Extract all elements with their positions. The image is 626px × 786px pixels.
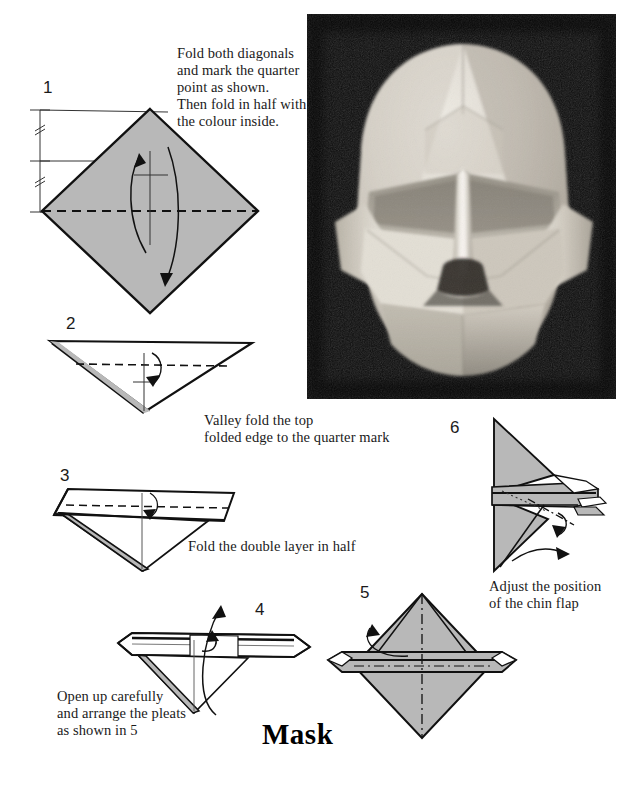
step-number-2: 2 bbox=[66, 314, 75, 334]
step-number-5: 5 bbox=[360, 583, 369, 603]
step-4-caption: Open up carefully and arrange the pleats… bbox=[57, 688, 232, 739]
step-2-diagram bbox=[40, 335, 260, 415]
step-number-3: 3 bbox=[60, 466, 69, 486]
step-3-caption: Fold the double layer in half bbox=[188, 538, 408, 555]
step-1-caption: Fold both diagonals and mark the quarter… bbox=[177, 45, 307, 130]
page-title: Mask bbox=[262, 718, 333, 751]
origami-instruction-page: 1 2 3 4 5 6 Fold both diagonals and mark… bbox=[0, 0, 626, 786]
step-number-1: 1 bbox=[43, 78, 52, 98]
step-number-6: 6 bbox=[450, 418, 459, 438]
step-6-caption: Adjust the position of the chin flap bbox=[489, 578, 624, 612]
step-6-diagram bbox=[478, 415, 613, 575]
step-5-diagram bbox=[322, 588, 522, 748]
finished-mask-photo bbox=[307, 14, 616, 399]
step-number-4: 4 bbox=[255, 600, 264, 620]
step-3-diagram bbox=[38, 483, 248, 573]
step-2-caption: Valley fold the top folded edge to the q… bbox=[204, 412, 404, 446]
